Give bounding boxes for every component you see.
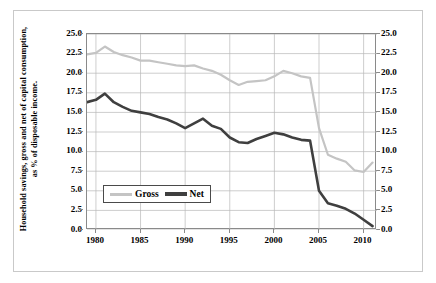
y-tick-mark-left — [79, 190, 83, 191]
y-tick-label-right: 12.5 — [381, 127, 407, 136]
y-tick-mark-left — [79, 53, 83, 54]
chart-legend: Gross Net — [103, 185, 211, 203]
y-tick-mark-left — [79, 72, 83, 73]
x-tick-mark — [273, 229, 274, 233]
y-tick-label-right: 10.0 — [381, 146, 407, 155]
y-tick-label-right: 25.0 — [381, 29, 407, 38]
y-tick-mark-left — [79, 151, 83, 152]
y-tick-label-right: 17.5 — [381, 87, 407, 96]
x-tick-mark — [95, 229, 96, 233]
y-tick-label-right: 0.0 — [381, 225, 407, 234]
x-tick-label: 1995 — [209, 235, 249, 245]
x-tick-mark — [140, 229, 141, 233]
x-tick-label: 2000 — [253, 235, 293, 245]
x-tick-label: 2005 — [298, 235, 338, 245]
legend-label-gross: Gross — [135, 189, 159, 199]
y-tick-mark-left — [79, 33, 83, 34]
series-line-net — [87, 94, 373, 227]
chart-figure: Household savings, gross and net of capi… — [0, 0, 436, 283]
y-tick-mark-left — [79, 170, 83, 171]
x-axis: 1980198519901995200020052010 — [86, 231, 376, 249]
y-tick-label-right: 20.0 — [381, 68, 407, 77]
x-tick-mark — [318, 229, 319, 233]
x-tick-label: 1980 — [75, 235, 115, 245]
y-tick-label-right: 7.5 — [381, 166, 407, 175]
y-tick-mark-left — [79, 131, 83, 132]
x-tick-label: 1985 — [120, 235, 160, 245]
y-tick-mark-left — [79, 229, 83, 230]
legend-entry-net: Net — [165, 189, 204, 199]
legend-swatch-net-icon — [165, 192, 187, 196]
y-tick-mark-left — [79, 92, 83, 93]
legend-label-net: Net — [190, 189, 204, 199]
x-tick-mark — [184, 229, 185, 233]
y-tick-label-right: 2.5 — [381, 205, 407, 214]
legend-entry-gross: Gross — [110, 189, 159, 199]
x-tick-label: 1990 — [164, 235, 204, 245]
y-axis-right: 0.02.55.07.510.012.515.017.520.022.525.0 — [381, 33, 409, 229]
y-axis-left: 0.02.55.07.510.012.515.017.520.022.525.0 — [54, 33, 82, 229]
y-tick-label-right: 22.5 — [381, 48, 407, 57]
y-axis-title: Household savings, gross and net of capi… — [18, 24, 40, 234]
y-tick-mark-left — [79, 111, 83, 112]
y-tick-mark-left — [79, 209, 83, 210]
x-tick-mark — [229, 229, 230, 233]
x-tick-label: 2010 — [343, 235, 383, 245]
y-tick-label-right: 5.0 — [381, 185, 407, 194]
legend-swatch-gross-icon — [110, 193, 132, 196]
x-tick-mark — [363, 229, 364, 233]
y-tick-label-right: 15.0 — [381, 107, 407, 116]
